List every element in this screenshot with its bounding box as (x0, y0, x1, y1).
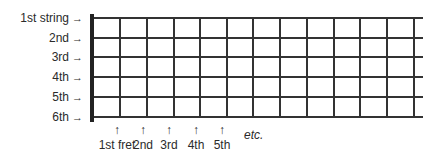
arrow-right-icon: → (72, 50, 83, 64)
fret-line (279, 17, 281, 118)
fret-line (119, 17, 121, 118)
string-label: 4th→ (52, 70, 83, 84)
string-label-text: 4th (52, 70, 69, 84)
string-label-text: 3rd (52, 50, 69, 64)
fret-line (306, 17, 308, 118)
fret-line (413, 17, 415, 118)
string-label: 2nd→ (49, 31, 83, 45)
string-line (92, 96, 423, 98)
string-line (92, 17, 423, 19)
fret-line (199, 17, 201, 118)
arrow-right-icon: → (72, 11, 83, 25)
arrow-right-icon: → (72, 70, 83, 84)
fret-line (173, 17, 175, 118)
fret-line (386, 17, 388, 118)
fret-line (226, 17, 228, 118)
fret-line (359, 17, 361, 118)
nut (90, 14, 94, 122)
string-label-text: 2nd (49, 31, 69, 45)
fret-line (333, 17, 335, 118)
fret-line (146, 17, 148, 118)
arrow-right-icon: → (72, 31, 83, 45)
fret-line (252, 17, 254, 118)
fret-marker-label: 5th (202, 138, 242, 152)
string-label: 5th→ (52, 90, 83, 104)
arrow-up-icon: ↑ (202, 124, 242, 136)
string-label-text: 1st string (20, 11, 69, 25)
string-line (92, 116, 423, 118)
arrow-right-icon: → (72, 110, 83, 124)
string-label-text: 6th (52, 110, 69, 124)
string-label: 3rd→ (52, 50, 83, 64)
string-line (92, 37, 423, 39)
string-line (92, 76, 423, 78)
string-label-text: 5th (52, 90, 69, 104)
string-label: 1st string→ (20, 11, 83, 25)
string-line (92, 56, 423, 58)
fret-marker: ↑5th (202, 124, 242, 152)
etc-label: etc. (244, 128, 263, 142)
arrow-right-icon: → (72, 90, 83, 104)
string-label: 6th→ (52, 110, 83, 124)
